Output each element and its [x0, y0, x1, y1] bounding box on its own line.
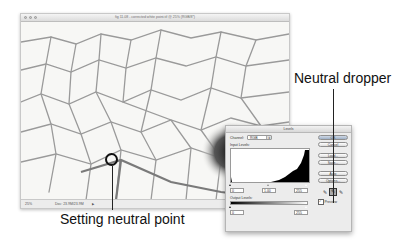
input-black-slider-handle[interactable] — [229, 184, 231, 186]
status-menu-arrow-icon[interactable]: ▶ — [84, 202, 94, 206]
output-white-field[interactable]: 255 — [294, 210, 308, 215]
output-black-field[interactable]: 0 — [230, 210, 244, 215]
output-levels-slider[interactable] — [230, 206, 308, 209]
histogram — [230, 148, 310, 183]
white-eyedropper-icon[interactable]: ✎ — [338, 189, 344, 195]
document-titlebar[interactable]: fig 11.08 - corrected white point.tif @ … — [21, 14, 289, 22]
setting-neutral-point-callout: Setting neutral point — [60, 211, 185, 227]
histogram-graph — [231, 149, 309, 182]
input-gamma-slider-handle[interactable] — [267, 184, 269, 186]
input-black-field[interactable]: 0 — [230, 188, 244, 193]
neutral-dropper-leader-line — [333, 89, 334, 203]
output-levels-label: Output Levels: — [230, 196, 315, 200]
channel-select[interactable]: RGB ⇕ — [247, 135, 272, 140]
preview-label: Preview — [325, 200, 337, 204]
neutral-point-marker — [105, 153, 118, 166]
output-white-slider-handle[interactable] — [305, 206, 307, 208]
neutral-dropper-callout: Neutral dropper — [294, 70, 391, 86]
channel-label: Channel: — [230, 136, 244, 140]
zoom-level-field[interactable]: 25% — [21, 202, 41, 206]
channel-value: RGB — [250, 136, 258, 140]
output-black-slider-handle[interactable] — [229, 206, 231, 208]
input-gamma-field[interactable]: 1.00 — [262, 188, 276, 193]
document-title: fig 11.08 - corrected white point.tif @ … — [21, 14, 289, 21]
select-arrows-icon: ⇕ — [266, 136, 271, 139]
neutral-point-leader-line — [112, 166, 113, 210]
input-white-slider-handle[interactable] — [305, 184, 307, 186]
input-levels-label: Input Levels: — [230, 143, 315, 147]
output-gradient-bar — [230, 201, 308, 205]
input-levels-slider[interactable] — [230, 184, 308, 187]
levels-controls: Channel: RGB ⇕ Input Levels: 0 1.00 255 … — [230, 135, 315, 227]
black-eyedropper-icon[interactable]: ✎ — [322, 189, 328, 195]
document-size-info: Doc: 23.9M/23.9M — [41, 202, 84, 206]
input-white-field[interactable]: 255 — [294, 188, 308, 193]
preview-checkbox[interactable]: ✓ — [318, 199, 324, 205]
